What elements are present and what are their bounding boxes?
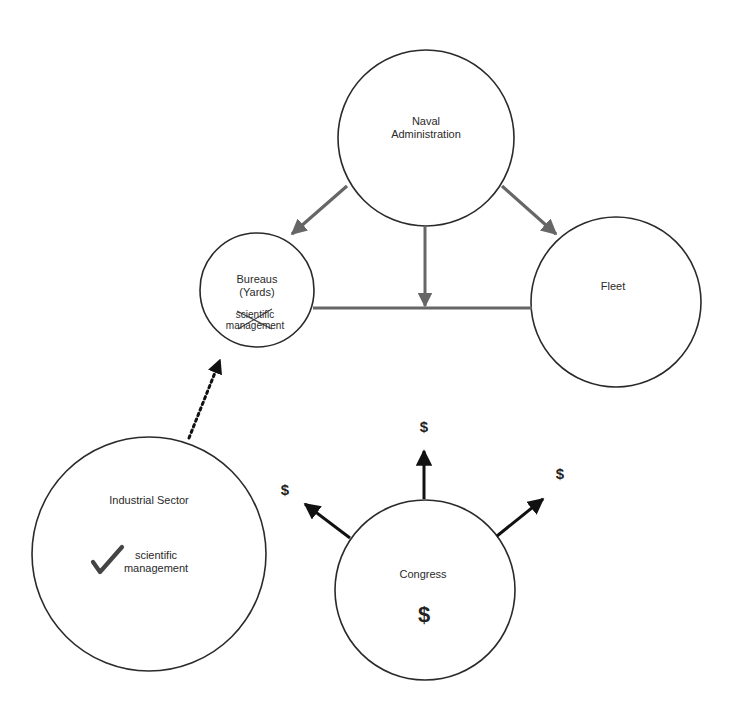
bureaus-label-line1: Bureaus [237, 273, 278, 286]
congress-money-right-arrow [497, 499, 543, 536]
congress-label: Congress [399, 568, 446, 581]
bureaus-label: Bureaus (Yards) [237, 273, 278, 299]
naval-administration-label: Naval Administration [391, 115, 461, 141]
industrial-sector-label: Industrial Sector [109, 494, 188, 507]
industrial-scientific-management-note: scientific management [124, 549, 188, 574]
fleet-label: Fleet [601, 280, 625, 293]
bureaus-label-line2: (Yards) [237, 286, 278, 299]
bureaus-note-line2: management [226, 320, 284, 331]
money-label-left: $ [281, 481, 289, 499]
naval-label-line2: Administration [391, 128, 461, 141]
industrial-note-line1: scientific [124, 549, 188, 562]
bureaus-note-line1: scientific [226, 309, 284, 320]
fleet-node [531, 217, 701, 387]
money-label-right: $ [556, 465, 564, 483]
bureaus-scientific-management-note: scientific management [226, 309, 284, 331]
congress-money-left-arrow [305, 504, 350, 538]
industrial-note-line2: management [124, 562, 188, 575]
industrial-to-bureaus-dotted-arrow [189, 360, 220, 438]
congress-dollar-symbol: $ [418, 602, 430, 628]
naval-label-line1: Naval [391, 115, 461, 128]
admin-to-fleet-arrow [502, 186, 556, 234]
diagram-canvas [0, 0, 740, 713]
money-label-up: $ [420, 418, 428, 436]
admin-to-bureaus-arrow [292, 186, 347, 234]
congress-node [335, 500, 515, 680]
